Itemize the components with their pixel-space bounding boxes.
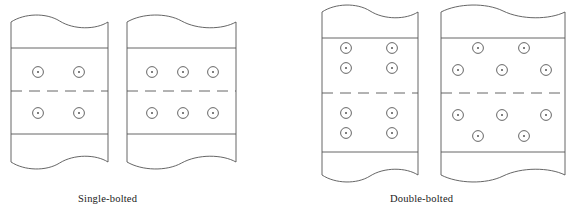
plate-single-right bbox=[127, 15, 236, 169]
plate-single-left bbox=[11, 15, 108, 169]
bolt-hole-center-dot bbox=[182, 112, 184, 114]
break-line-top bbox=[441, 5, 565, 18]
bolt-hole bbox=[453, 65, 464, 76]
break-line-bottom bbox=[11, 156, 108, 169]
bolt-hole-center-dot bbox=[345, 47, 347, 49]
bolt-hole-center-dot bbox=[151, 112, 153, 114]
bolt-hole-center-dot bbox=[391, 132, 393, 134]
bolt-hole-center-dot bbox=[477, 135, 479, 137]
bolt-hole bbox=[33, 67, 44, 78]
bolt-hole-center-dot bbox=[523, 135, 525, 137]
bolted-connection-figure: Single-bolted Double-bolted bbox=[0, 0, 578, 214]
plate-double-right bbox=[441, 5, 565, 182]
bolt-hole-center-dot bbox=[151, 71, 153, 73]
bolt-hole-center-dot bbox=[545, 114, 547, 116]
bolt-hole-center-dot bbox=[78, 112, 80, 114]
bolt-hole bbox=[387, 63, 398, 74]
bolt-hole bbox=[341, 108, 352, 119]
bolt-hole-center-dot bbox=[345, 132, 347, 134]
bolt-hole-center-dot bbox=[501, 114, 503, 116]
plate-double-left bbox=[322, 5, 418, 182]
break-line-top bbox=[322, 5, 418, 18]
caption-double-bolted: Double-bolted bbox=[390, 193, 453, 204]
bolt-hole-center-dot bbox=[212, 112, 214, 114]
bolt-hole bbox=[208, 108, 219, 119]
bolt-hole bbox=[541, 65, 552, 76]
bolt-hole bbox=[74, 108, 85, 119]
bolt-hole bbox=[541, 110, 552, 121]
bolt-hole-center-dot bbox=[37, 112, 39, 114]
break-line-bottom bbox=[441, 169, 565, 182]
bolt-hole bbox=[387, 43, 398, 54]
bolt-hole bbox=[387, 108, 398, 119]
bolt-hole-center-dot bbox=[501, 69, 503, 71]
bolt-hole-center-dot bbox=[457, 114, 459, 116]
bolt-hole-center-dot bbox=[212, 71, 214, 73]
bolt-hole bbox=[178, 67, 189, 78]
bolt-hole-center-dot bbox=[391, 47, 393, 49]
bolt-hole bbox=[473, 43, 484, 54]
caption-single-bolted: Single-bolted bbox=[78, 193, 137, 204]
bolt-hole-center-dot bbox=[391, 112, 393, 114]
bolt-hole-center-dot bbox=[182, 71, 184, 73]
break-line-top bbox=[11, 15, 108, 28]
bolt-hole-center-dot bbox=[345, 112, 347, 114]
bolt-hole bbox=[147, 67, 158, 78]
bolt-hole bbox=[147, 108, 158, 119]
diagram-canvas bbox=[0, 0, 578, 214]
bolt-hole bbox=[208, 67, 219, 78]
panels-layer bbox=[11, 5, 565, 182]
break-line-bottom bbox=[322, 169, 418, 182]
bolt-hole bbox=[341, 128, 352, 139]
break-line-top bbox=[127, 15, 236, 28]
bolt-hole bbox=[473, 131, 484, 142]
bolt-hole-center-dot bbox=[545, 69, 547, 71]
bolt-hole bbox=[519, 131, 530, 142]
bolt-hole-center-dot bbox=[345, 67, 347, 69]
bolt-hole bbox=[453, 110, 464, 121]
bolt-hole bbox=[519, 43, 530, 54]
bolt-hole-center-dot bbox=[391, 67, 393, 69]
bolt-hole-center-dot bbox=[37, 71, 39, 73]
bolt-hole-center-dot bbox=[523, 47, 525, 49]
bolt-hole bbox=[497, 65, 508, 76]
break-line-bottom bbox=[127, 156, 236, 169]
bolt-hole bbox=[74, 67, 85, 78]
bolt-hole-center-dot bbox=[78, 71, 80, 73]
bolt-hole bbox=[341, 63, 352, 74]
bolt-hole bbox=[178, 108, 189, 119]
bolt-hole-center-dot bbox=[457, 69, 459, 71]
bolt-hole-center-dot bbox=[477, 47, 479, 49]
bolt-hole bbox=[33, 108, 44, 119]
bolt-hole bbox=[387, 128, 398, 139]
bolt-hole bbox=[341, 43, 352, 54]
bolt-hole bbox=[497, 110, 508, 121]
